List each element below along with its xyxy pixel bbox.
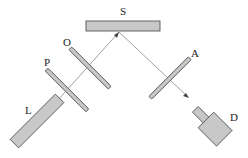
sample-S	[86, 21, 160, 31]
detector-D	[188, 102, 233, 147]
optical-setup-diagram: S O P L A D	[0, 0, 248, 158]
label-L: L	[25, 104, 32, 116]
laser-L	[10, 94, 64, 148]
label-S: S	[120, 5, 126, 17]
reflected-arrowhead	[183, 93, 189, 98]
label-D: D	[230, 111, 238, 123]
plate-O	[69, 47, 111, 89]
plate-A	[149, 57, 191, 99]
reflected-beam	[119, 32, 188, 97]
label-O: O	[63, 36, 71, 48]
label-P: P	[44, 56, 50, 68]
label-A: A	[191, 47, 199, 59]
